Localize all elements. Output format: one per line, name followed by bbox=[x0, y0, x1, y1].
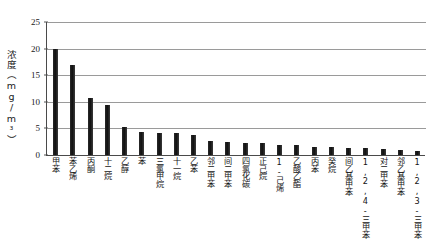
bar bbox=[243, 143, 248, 155]
x-label-slot: 丙酮 bbox=[80, 157, 97, 245]
x-tick-label: 乙酸乙酯 bbox=[291, 157, 300, 188]
bar bbox=[363, 148, 368, 155]
x-label-slot: 苯乙烯 bbox=[63, 157, 80, 245]
x-tick-label: 三氯甲烷 bbox=[154, 157, 163, 188]
bar bbox=[157, 133, 162, 155]
x-label-slot: 对二甲苯 bbox=[373, 157, 390, 245]
x-tick-label: 癸烷 bbox=[326, 157, 335, 172]
bar-slot bbox=[357, 22, 374, 155]
x-tick-label: 邻二甲苯 bbox=[205, 157, 214, 188]
bar-slot bbox=[150, 22, 167, 155]
x-tick-label: 丙酮 bbox=[85, 157, 94, 172]
bar-slot bbox=[374, 22, 391, 155]
bar-slot bbox=[47, 22, 64, 155]
bar-slot bbox=[271, 22, 288, 155]
x-tick-label: 正己烷 bbox=[257, 157, 266, 180]
bar-slot bbox=[64, 22, 81, 155]
x-label-slot: 1,2,4-三甲苯 bbox=[356, 157, 373, 245]
x-label-slot: 1-己烯 bbox=[270, 157, 287, 245]
y-tick-label: 25 bbox=[31, 17, 40, 27]
bar bbox=[208, 141, 213, 155]
bar-slot bbox=[392, 22, 409, 155]
x-label-slot: 正己烷 bbox=[253, 157, 270, 245]
x-tick-label: 苯 bbox=[136, 157, 145, 165]
x-tick-label: 四氯化碳 bbox=[240, 157, 249, 188]
bar bbox=[225, 142, 230, 155]
x-label-slot: 间二甲苯 bbox=[218, 157, 235, 245]
x-label-slot: 间乙基甲苯 bbox=[339, 157, 356, 245]
bar-chart: 浓度（mg/m³） 0510152025 甲苯苯乙烯丙酮十二烷乙醇苯三氯甲烷十一… bbox=[0, 0, 441, 246]
x-tick-label: 丙苯 bbox=[309, 157, 318, 172]
y-tick-label: 15 bbox=[31, 70, 40, 80]
bar bbox=[329, 147, 334, 155]
x-tick-label: 乙苯 bbox=[188, 157, 197, 172]
x-label-slot: 苯 bbox=[132, 157, 149, 245]
bar bbox=[312, 147, 317, 156]
bar-slot bbox=[237, 22, 254, 155]
x-tick-label: 对二甲苯 bbox=[378, 157, 387, 188]
x-tick-label: 甲苯 bbox=[50, 157, 59, 172]
x-label-slot: 邻二甲苯 bbox=[201, 157, 218, 245]
x-label-slot: 乙醇 bbox=[115, 157, 132, 245]
y-tick-label: 10 bbox=[31, 97, 40, 107]
x-label-slot: 邻乙基甲苯 bbox=[391, 157, 408, 245]
bar-slot bbox=[254, 22, 271, 155]
plot-area bbox=[46, 22, 425, 155]
x-axis-line bbox=[46, 155, 425, 156]
y-tick-label: 5 bbox=[36, 123, 41, 133]
x-label-slot: 十一烷 bbox=[167, 157, 184, 245]
y-axis-ticks: 0510152025 bbox=[18, 16, 44, 160]
x-tick-label: 1-己烯 bbox=[274, 157, 283, 192]
bar bbox=[260, 143, 265, 155]
x-label-slot: 乙酸乙酯 bbox=[287, 157, 304, 245]
x-tick-label: 间乙基甲苯 bbox=[343, 157, 352, 196]
bar bbox=[294, 145, 299, 155]
x-tick-label: 1,2,3-三甲苯 bbox=[412, 157, 421, 238]
bar-slot bbox=[288, 22, 305, 155]
bar-slot bbox=[340, 22, 357, 155]
y-tick-label: 0 bbox=[36, 150, 41, 160]
x-label-slot: 癸烷 bbox=[322, 157, 339, 245]
bar bbox=[191, 135, 196, 155]
bar bbox=[70, 65, 75, 155]
bar bbox=[53, 49, 58, 155]
x-label-slot: 三氯甲烷 bbox=[149, 157, 166, 245]
bar bbox=[105, 105, 110, 155]
bar bbox=[174, 133, 179, 155]
bar-slot bbox=[219, 22, 236, 155]
x-tick-label: 苯乙烯 bbox=[67, 157, 76, 180]
bar-slot bbox=[168, 22, 185, 155]
x-label-slot: 四氯化碳 bbox=[236, 157, 253, 245]
bar-slot bbox=[133, 22, 150, 155]
x-label-slot: 丙苯 bbox=[305, 157, 322, 245]
x-tick-label: 1,2,4-三甲苯 bbox=[360, 157, 369, 238]
bar-slot bbox=[409, 22, 426, 155]
x-tick-label: 间二甲苯 bbox=[222, 157, 231, 188]
bar-slot bbox=[116, 22, 133, 155]
bar-slot bbox=[306, 22, 323, 155]
bar bbox=[277, 145, 282, 155]
x-label-slot: 十二烷 bbox=[98, 157, 115, 245]
x-tick-label: 乙醇 bbox=[119, 157, 128, 172]
bar-slot bbox=[185, 22, 202, 155]
bar-slot bbox=[323, 22, 340, 155]
x-label-slot: 乙苯 bbox=[184, 157, 201, 245]
bar bbox=[346, 148, 351, 155]
bar-slot bbox=[81, 22, 98, 155]
x-label-slot: 甲苯 bbox=[46, 157, 63, 245]
y-tick-label: 20 bbox=[31, 44, 40, 54]
x-tick-label: 邻乙基甲苯 bbox=[395, 157, 404, 196]
x-label-slot: 1,2,3-三甲苯 bbox=[408, 157, 425, 245]
bar-slot bbox=[202, 22, 219, 155]
x-tick-label: 十一烷 bbox=[171, 157, 180, 180]
bar-series bbox=[47, 22, 426, 155]
bar-slot bbox=[99, 22, 116, 155]
x-tick-label: 十二烷 bbox=[102, 157, 111, 180]
y-axis-title: 浓度（mg/m³） bbox=[4, 42, 18, 152]
bar bbox=[88, 98, 93, 155]
bar bbox=[122, 127, 127, 155]
x-axis-labels: 甲苯苯乙烯丙酮十二烷乙醇苯三氯甲烷十一烷乙苯邻二甲苯间二甲苯四氯化碳正己烷1-己… bbox=[46, 157, 425, 245]
bar bbox=[139, 132, 144, 155]
